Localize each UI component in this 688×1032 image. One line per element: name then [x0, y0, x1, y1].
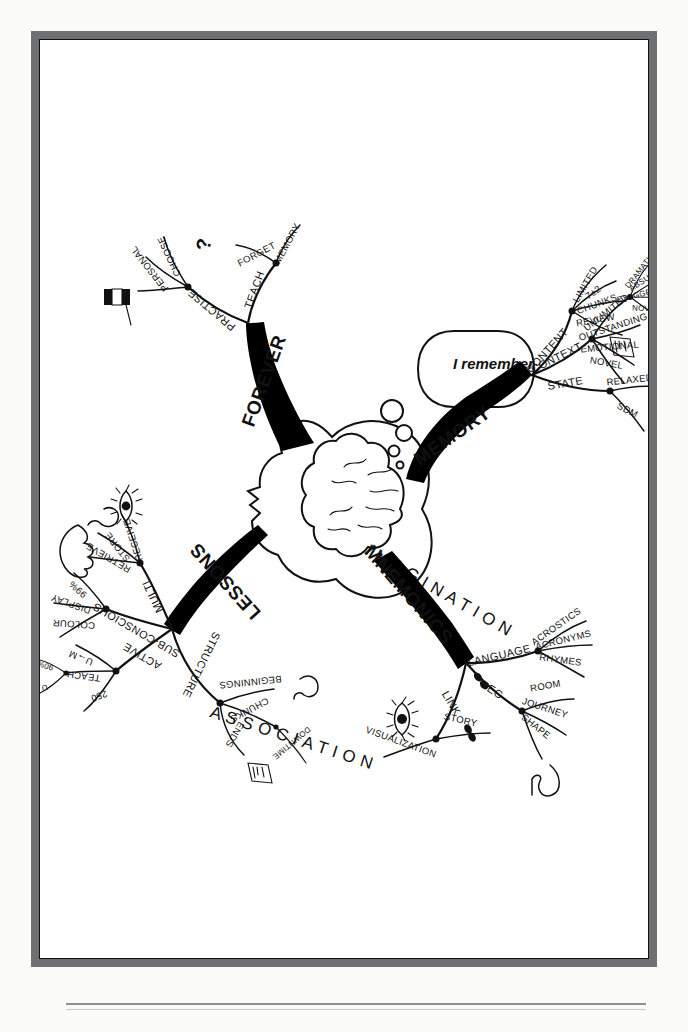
svg-text:?: ? — [192, 237, 215, 251]
label-teach: TEACH — [242, 269, 267, 310]
label-99-percent: 99% — [66, 579, 88, 601]
eye-icon-receive — [111, 485, 142, 527]
question-mark-icon: ? — [192, 237, 215, 251]
sleep-icon — [294, 676, 318, 699]
clock-icon-ends — [248, 763, 272, 783]
label-90-percent: 90% — [39, 659, 55, 673]
label-state: STATE — [547, 374, 584, 392]
label-u-to-m: U→M — [67, 648, 94, 668]
node-structure[interactable]: STRUCTURE BEGINNINGS CHUNKS ENDS DOWNTIM… — [181, 630, 318, 783]
label-practise: PRACTISE — [185, 287, 237, 334]
label-room: ROOM — [529, 677, 561, 693]
label-sdm: SDM — [615, 400, 640, 420]
branch-mnemonics[interactable]: LANGUAGE ACROSTICS ACRONYMS RHYMES PEG — [360, 541, 592, 796]
label-novel-2: NOVEL — [632, 304, 649, 314]
node-link[interactable]: LINK STORY VISUALIZATION — [364, 689, 490, 760]
branch-forever[interactable]: TEACH MEMORY FORGET PRACTISE — [104, 221, 314, 451]
label-story: STORY — [443, 711, 479, 729]
label-250: 250 — [89, 688, 109, 704]
ear-icon-store — [88, 508, 118, 527]
label-memory-2: MEMORY — [272, 221, 303, 266]
mindmap-svg: I remember I M A G I N A T I O N A S S O… — [39, 39, 649, 959]
label-multi: MULTI — [140, 579, 165, 615]
label-shape: SHAPE — [519, 712, 552, 741]
swan-two-icon — [532, 765, 559, 796]
node-state[interactable]: STATE RELAXED SDM BREATH — [547, 357, 649, 432]
node-subconscious[interactable]: SUB-CONSCIOUS 99% DISPLAY COLOUR — [49, 573, 181, 660]
label-choose: CHOOSE — [155, 235, 183, 279]
page-rule-top — [66, 1003, 646, 1005]
label-rhymes: RHYMES — [539, 651, 583, 668]
node-practise[interactable]: PRACTISE ? CHOOSE PERSONAL — [104, 235, 238, 334]
label-u: U — [41, 683, 48, 693]
mindmap-rotated-layer: I remember I M A G I N A T I O N A S S O… — [39, 39, 649, 959]
node-outstanding-children[interactable]: DRAMATIC ABSURD EXAGGERATED NOVEL — [616, 251, 649, 321]
node-active[interactable]: ACTIVE U→M TEACH 250 90% U — [39, 641, 163, 711]
label-language: LANGUAGE — [466, 642, 531, 668]
page-rule-bottom — [66, 1009, 646, 1010]
screenshot-page: I remember I M A G I N A T I O N A S S O… — [0, 0, 688, 1032]
label-forget: FORGET — [236, 239, 278, 268]
label-novel: NOVEL — [589, 354, 624, 371]
node-teach[interactable]: TEACH MEMORY FORGET — [236, 221, 303, 310]
mindmap-canvas: I remember I M A G I N A T I O N A S S O… — [39, 39, 649, 959]
label-relaxed: RELAXED — [606, 372, 649, 388]
picture-frame: I remember I M A G I N A T I O N A S S O… — [31, 31, 657, 967]
book-icon — [104, 289, 131, 325]
